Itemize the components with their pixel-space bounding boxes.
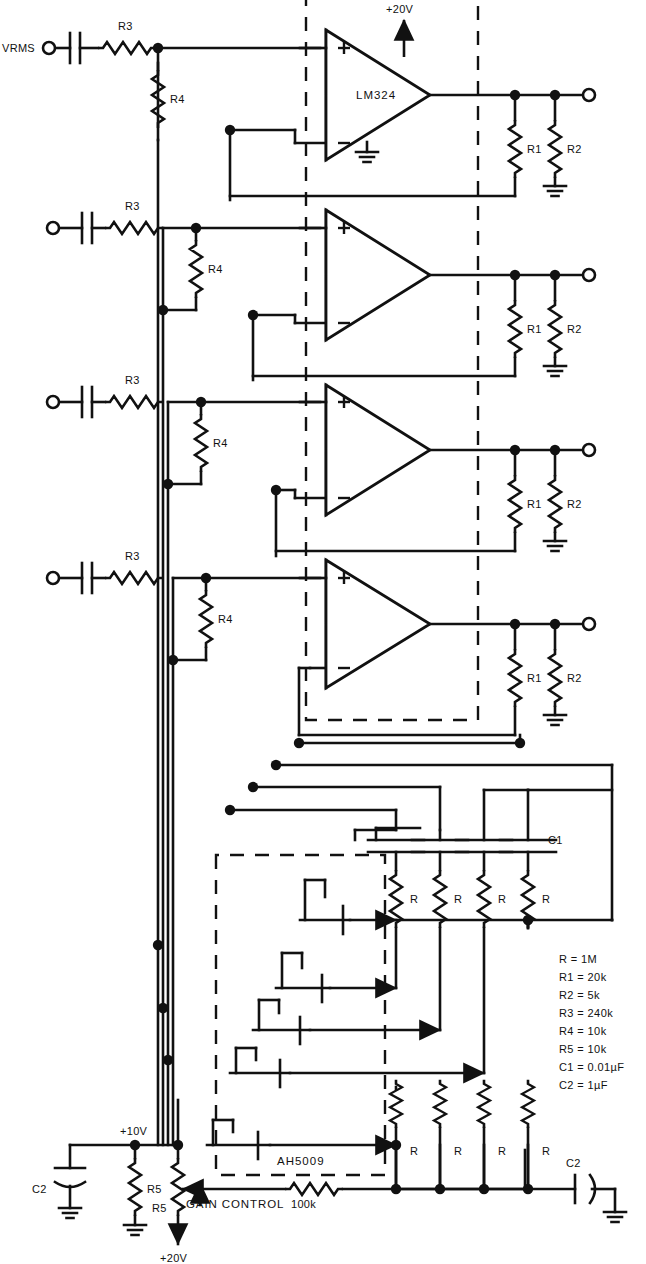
value-line-4: R4 = 10k	[559, 1025, 607, 1037]
r-upper-1-label: R	[410, 893, 418, 905]
r-lower-2-label: R	[454, 1145, 462, 1157]
ch3-r3	[105, 396, 163, 408]
channel-1-input	[56, 33, 320, 1145]
value-line-0: R = 1M	[559, 953, 597, 965]
value-line-7: C2 = 1µF	[559, 1079, 608, 1091]
ch2-r4	[190, 240, 202, 298]
schematic-canvas: VRMS R3 R3 R3 R3 R4 R4 R4 R4 R1 R2 R1 R2…	[0, 0, 646, 1264]
circuit-schematic: VRMS R3 R3 R3 R3 R4 R4 R4 R4 R1 R2 R1 R2…	[0, 0, 646, 1264]
output-terminal-4	[583, 618, 595, 630]
ch4-r4	[200, 590, 212, 648]
r5-pot-label: R5	[152, 1202, 167, 1214]
supply-bottom-label: +20V	[160, 1252, 188, 1264]
output-terminal-2	[583, 269, 595, 281]
value-line-5: R5 = 10k	[559, 1043, 607, 1055]
ch3-r2	[549, 475, 561, 533]
ch4-r2-label: R2	[567, 672, 582, 684]
c2-right-label: C2	[566, 1157, 581, 1169]
supply-10v-label: +10V	[120, 1125, 148, 1137]
ah5009-outline	[216, 855, 385, 1175]
r5-shunt	[129, 1158, 141, 1216]
value-line-2: R2 = 5k	[559, 989, 600, 1001]
c1-bank	[355, 790, 612, 870]
r-bank-lower-leads	[396, 1128, 528, 1189]
r-bank-lower-3	[478, 1080, 490, 1128]
r-upper-4-label: R	[542, 893, 550, 905]
ch3-r1-label: R1	[527, 498, 542, 510]
ch1-r2	[549, 120, 561, 178]
input-terminal-1	[43, 42, 55, 54]
ch4-r3	[105, 572, 163, 584]
input-terminal-2	[47, 222, 59, 234]
ch2-r3-label: R3	[125, 200, 140, 212]
output-terminal-3	[583, 444, 595, 456]
ch1-r1	[509, 120, 521, 178]
ch3-opamp-body	[326, 385, 430, 515]
ch3-r3-label: R3	[125, 374, 140, 386]
ch3-r1	[509, 475, 521, 533]
r5-pot	[172, 1158, 184, 1216]
ch2-r4-label: R4	[208, 263, 223, 275]
gain-pot-value-label: 100k	[291, 1198, 316, 1210]
ch2-r2	[549, 300, 561, 358]
ch2-r3	[105, 222, 163, 234]
input-terminal-4	[47, 572, 59, 584]
ah5009-label: AH5009	[277, 1155, 325, 1167]
bottom-supply	[55, 1087, 626, 1244]
ch2-r1	[509, 300, 521, 358]
gain-pot-100k	[285, 1183, 343, 1195]
ch4-r4-label: R4	[218, 613, 233, 625]
gain-control-label: GAIN CONTROL	[186, 1198, 284, 1210]
ch3-r4-label: R4	[213, 437, 228, 449]
c1-label: C1	[548, 834, 563, 846]
c2-left-label: C2	[32, 1183, 47, 1195]
ch1-r4-label: R4	[170, 93, 185, 105]
ch4-r1	[509, 649, 521, 707]
ch3-r2-label: R2	[567, 498, 582, 510]
r5-shunt-label: R5	[147, 1183, 162, 1195]
ch3-r4	[195, 414, 207, 472]
r-lower-1-label: R	[410, 1145, 418, 1157]
r-upper-2-label: R	[454, 893, 462, 905]
ch1-r1-label: R1	[527, 143, 542, 155]
wires-layer	[55, 20, 626, 1244]
ch4-r2	[549, 649, 561, 707]
r-bank-lower-2	[434, 1080, 446, 1128]
r-lower-4-label: R	[542, 1145, 550, 1157]
value-line-6: C1 = 0.01µF	[559, 1061, 624, 1073]
ch1-r3-label: R3	[118, 20, 133, 32]
output-terminal-1	[583, 89, 595, 101]
labels-layer: VRMS R3 R3 R3 R3 R4 R4 R4 R4 R1 R2 R1 R2…	[2, 3, 582, 1264]
channel-2-input	[60, 213, 320, 1145]
ch1-r2-label: R2	[567, 143, 582, 155]
r-lower-3-label: R	[498, 1145, 506, 1157]
ch2-r2-label: R2	[567, 323, 582, 335]
values-table: R = 1M R1 = 20k R2 = 5k R3 = 240k R4 = 1…	[559, 953, 624, 1091]
ch2-r1-label: R1	[527, 323, 542, 335]
r-upper-3-label: R	[498, 893, 506, 905]
vrms-label: VRMS	[2, 42, 35, 54]
ch1-r3	[98, 42, 156, 54]
ch2-opamp-body	[326, 210, 430, 340]
r-bank-lower-4	[522, 1080, 534, 1128]
value-line-3: R3 = 240k	[559, 1007, 613, 1019]
input-terminal-3	[47, 396, 59, 408]
lm324-label: LM324	[356, 89, 396, 101]
supply-20v-label: +20V	[386, 3, 414, 15]
ch4-r1-label: R1	[527, 672, 542, 684]
value-line-1: R1 = 20k	[559, 971, 607, 983]
ch4-r3-label: R3	[125, 550, 140, 562]
